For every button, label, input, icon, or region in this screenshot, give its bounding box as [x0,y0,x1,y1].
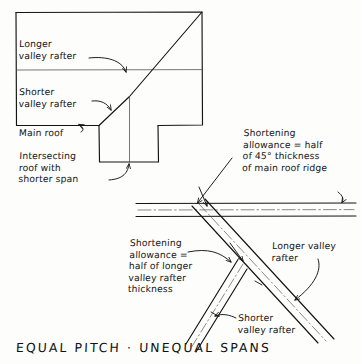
shortening-gap-ticks-ridge [198,158,233,206]
plan-longer-valley-rafter-line [130,12,203,97]
label-longer-valley-rafter-plan: Longer valley rafter [18,38,77,61]
label-shortening-allowance-rafter: Shortening allowance = half of longer va… [128,237,194,295]
label-intersecting-roof: Intersecting roof with shorter span [18,150,79,185]
label-main-roof: Main roof [19,127,64,139]
leader-longer-valley-rafter-detail [295,259,319,300]
label-longer-valley-rafter-detail: Longer valley rafter [271,240,336,263]
drawing-canvas: Longer valley rafter Shorter valley raft… [0,0,361,364]
leader-shorter-valley-rafter-plan [92,101,111,110]
plan-intersecting-roof-outline [99,126,159,163]
drawing-title: EQUAL PITCH · UNEQUAL SPANS [16,340,272,355]
label-shortening-allowance-ridge: Shortening allowance = half of 45° thick… [242,127,329,173]
plan-shorter-valley-rafter-line [99,97,130,126]
detail-shorter-valley-rafter [186,260,247,353]
leader-intersecting-roof-plan [109,164,129,180]
label-shorter-valley-rafter-detail: Shorter valley rafter [237,312,296,335]
leader-shortening-ridge [338,192,343,203]
detail-shorter-rafter-centerline [191,264,243,348]
label-shorter-valley-rafter-plan: Shorter valley rafter [18,86,77,109]
